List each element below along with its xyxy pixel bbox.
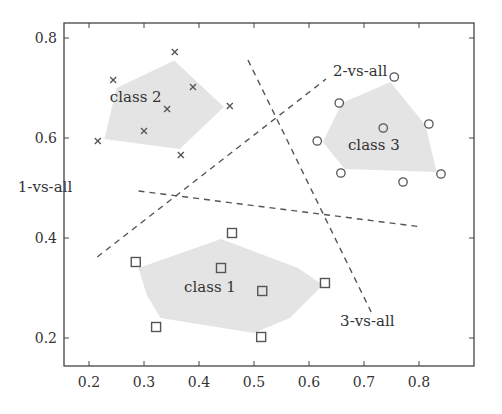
y-tick-label: 0.6 xyxy=(35,130,57,146)
x-tick-label: 0.8 xyxy=(408,374,430,390)
x-tick-label: 0.6 xyxy=(298,374,320,390)
circle-marker xyxy=(425,120,433,128)
y-tick-label: 0.8 xyxy=(35,30,57,46)
circle-marker xyxy=(437,170,445,178)
circle-marker xyxy=(313,137,321,145)
square-marker xyxy=(228,229,237,238)
circle-marker xyxy=(390,73,398,81)
x-marker xyxy=(172,49,178,55)
y-tick-label: 0.4 xyxy=(35,230,57,246)
class-3-label: class 3 xyxy=(348,136,400,154)
plot-axes: 0.20.30.40.50.60.70.80.20.40.60.8 xyxy=(35,23,474,390)
square-marker xyxy=(131,258,140,267)
x-marker xyxy=(95,138,101,144)
x-tick-label: 0.5 xyxy=(243,374,265,390)
x-marker xyxy=(110,77,116,83)
1-vs-all-line xyxy=(139,191,423,227)
x-tick-label: 0.4 xyxy=(188,374,210,390)
class-2-label: class 2 xyxy=(110,88,162,106)
x-marker xyxy=(227,103,233,109)
square-marker xyxy=(257,333,266,342)
square-marker xyxy=(320,279,329,288)
2-vs-all-label: 2-vs-all xyxy=(333,62,388,80)
x-tick-label: 0.7 xyxy=(353,374,375,390)
scatter-chart: class 1class 2class 31-vs-all2-vs-all3-v… xyxy=(0,0,502,414)
x-marker xyxy=(178,152,184,158)
square-marker xyxy=(152,323,161,332)
y-tick-label: 0.2 xyxy=(35,330,57,346)
circle-marker xyxy=(399,178,407,186)
class-1-label: class 1 xyxy=(184,278,236,296)
x-tick-label: 0.2 xyxy=(78,374,100,390)
x-tick-label: 0.3 xyxy=(133,374,155,390)
circle-marker xyxy=(337,169,345,177)
3-vs-all-label: 3-vs-all xyxy=(340,312,395,330)
